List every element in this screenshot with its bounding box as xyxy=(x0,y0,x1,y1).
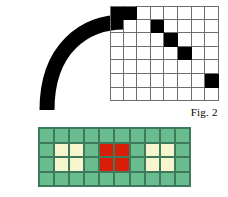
pixel-cell-empty xyxy=(164,74,178,88)
pixel-cell-empty xyxy=(151,88,165,102)
pixel-cell-empty xyxy=(124,74,138,88)
pixel-cell-empty xyxy=(192,60,206,74)
color-cell-green xyxy=(130,157,145,172)
pixel-cell-empty xyxy=(137,33,151,47)
color-cell-green xyxy=(39,157,54,172)
color-cell-green xyxy=(130,172,145,187)
pixel-cell-empty xyxy=(178,33,192,47)
pixel-cell-empty xyxy=(192,6,206,20)
top-panel: Fig. 2 xyxy=(0,0,228,126)
pixel-cell-filled xyxy=(164,33,178,47)
color-cell-green xyxy=(130,143,145,158)
pixel-cell-empty xyxy=(178,88,192,102)
pixel-cell-empty xyxy=(178,6,192,20)
pixel-cell-empty xyxy=(205,6,219,20)
pixel-cell-empty xyxy=(164,20,178,34)
color-cell-cream xyxy=(54,143,69,158)
pixel-cell-empty xyxy=(192,88,206,102)
color-cell-green xyxy=(145,128,160,143)
pixel-cell-empty xyxy=(137,88,151,102)
pixel-cell-empty xyxy=(137,6,151,20)
pixel-cell-empty xyxy=(164,6,178,20)
color-cell-cream xyxy=(145,143,160,158)
color-cell-green xyxy=(160,172,175,187)
pixel-cell-empty xyxy=(124,60,138,74)
pixel-cell-empty xyxy=(124,88,138,102)
pixel-cell-empty xyxy=(124,20,138,34)
color-cell-green xyxy=(69,128,84,143)
pixel-cell-empty xyxy=(124,33,138,47)
color-cell-red xyxy=(99,157,114,172)
rasterized-curve-grid xyxy=(110,6,219,101)
pixel-cell-empty xyxy=(178,20,192,34)
pixel-cell-empty xyxy=(164,47,178,61)
pixel-cell-empty xyxy=(124,47,138,61)
pixel-cell-empty xyxy=(151,60,165,74)
color-cell-green xyxy=(175,157,190,172)
color-cell-green xyxy=(130,128,145,143)
color-cell-green xyxy=(175,143,190,158)
pixel-cell-filled xyxy=(151,20,165,34)
pixel-cell-filled xyxy=(178,47,192,61)
color-grid-panel xyxy=(38,127,191,187)
color-cell-red xyxy=(114,143,129,158)
color-cell-green xyxy=(69,172,84,187)
pixel-cell-empty xyxy=(205,47,219,61)
color-cell-cream xyxy=(54,157,69,172)
pixel-cell-empty xyxy=(205,60,219,74)
color-cell-red xyxy=(99,143,114,158)
color-cell-green xyxy=(145,172,160,187)
color-cell-green xyxy=(114,128,129,143)
pixel-cell-empty xyxy=(151,47,165,61)
color-cell-cream xyxy=(69,143,84,158)
pixel-cell-empty xyxy=(192,47,206,61)
pixel-cell-empty xyxy=(151,33,165,47)
color-cell-green xyxy=(84,128,99,143)
pixel-cell-empty xyxy=(110,60,124,74)
pixel-cell-empty xyxy=(192,20,206,34)
pixel-cell-empty xyxy=(205,33,219,47)
pixel-cell-empty xyxy=(164,88,178,102)
pixel-cell-empty xyxy=(110,74,124,88)
color-cell-cream xyxy=(145,157,160,172)
figure-caption: Fig. 2 xyxy=(191,106,218,118)
color-cell-green xyxy=(54,128,69,143)
color-cell-green xyxy=(84,143,99,158)
color-cell-green xyxy=(84,172,99,187)
color-cell-cream xyxy=(69,157,84,172)
color-cell-green xyxy=(39,128,54,143)
color-cell-cream xyxy=(160,157,175,172)
color-cell-green xyxy=(160,128,175,143)
color-cell-green xyxy=(114,172,129,187)
pixel-cell-empty xyxy=(110,88,124,102)
pixel-cell-empty xyxy=(192,74,206,88)
pixel-cell-empty xyxy=(137,74,151,88)
pixel-cell-empty xyxy=(192,33,206,47)
pixel-cell-empty xyxy=(178,60,192,74)
color-cell-green xyxy=(84,157,99,172)
pixel-cell-filled xyxy=(205,74,219,88)
pixel-cell-empty xyxy=(137,60,151,74)
pixel-cell-empty xyxy=(110,47,124,61)
color-cell-red xyxy=(114,157,129,172)
pixel-cell-empty xyxy=(137,47,151,61)
pixel-cell-empty xyxy=(164,60,178,74)
pixel-cell-empty xyxy=(205,88,219,102)
pixel-cell-empty xyxy=(178,74,192,88)
pixel-cell-empty xyxy=(151,6,165,20)
pixel-cell-empty xyxy=(110,33,124,47)
figure-container: Fig. 2 xyxy=(0,0,228,197)
color-cell-green xyxy=(175,128,190,143)
pixel-cell-empty xyxy=(205,20,219,34)
color-cell-green xyxy=(54,172,69,187)
color-cell-cream xyxy=(160,143,175,158)
pixel-cell-filled xyxy=(110,6,124,20)
color-cell-grid xyxy=(38,127,191,187)
color-cell-green xyxy=(99,128,114,143)
color-cell-green xyxy=(175,172,190,187)
pixel-cell-empty xyxy=(137,20,151,34)
color-cell-green xyxy=(39,172,54,187)
pixel-cell-empty xyxy=(151,74,165,88)
pixel-cell-filled xyxy=(124,6,138,20)
pixel-cell-empty xyxy=(110,20,124,34)
